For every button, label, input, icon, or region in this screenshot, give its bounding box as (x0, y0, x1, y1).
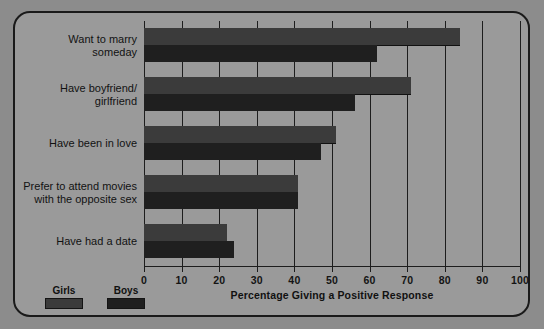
x-axis-tick (257, 266, 258, 272)
bar-boys-3 (144, 192, 298, 209)
x-axis-tick-label: 80 (425, 274, 465, 286)
category-label-4: Have had a date (0, 235, 137, 248)
plot-area: 0102030405060708090100 (144, 21, 520, 266)
chart-card: Want to marrysomedayHave boyfriend/girlf… (13, 11, 530, 317)
x-axis-tick (294, 266, 295, 272)
x-axis-tick-label: 10 (162, 274, 202, 286)
legend-item-girls[interactable]: Girls (35, 285, 93, 309)
category-labels: Want to marrysomedayHave boyfriend/girlf… (15, 21, 137, 266)
bar-boys-2 (144, 143, 321, 160)
x-axis-tick-label: 60 (350, 274, 390, 286)
x-axis-tick (482, 266, 483, 272)
x-axis-tick (445, 266, 446, 272)
x-axis-tick-label: 70 (387, 274, 427, 286)
x-axis-tick (144, 266, 145, 272)
category-label-3: Prefer to attend movieswith the opposite… (0, 180, 137, 205)
bar-girls-4 (144, 224, 227, 242)
bar-boys-0 (144, 45, 377, 62)
gridline (520, 21, 521, 266)
category-label-2: Have been in love (0, 137, 137, 150)
category-label-0: Want to marrysomeday (0, 33, 137, 58)
bar-boys-1 (144, 94, 355, 111)
bar-girls-3 (144, 175, 298, 193)
x-axis-tick (407, 266, 408, 272)
bar-girls-1 (144, 77, 411, 95)
x-axis-tick (182, 266, 183, 272)
legend-swatch-girls (45, 298, 83, 309)
legend-label-girls: Girls (35, 285, 93, 296)
bar-girls-2 (144, 126, 336, 144)
legend-item-boys[interactable]: Boys (97, 285, 155, 309)
x-axis-tick-label: 30 (237, 274, 277, 286)
gridline (445, 21, 446, 266)
x-axis-tick (370, 266, 371, 272)
x-axis-tick-label: 50 (312, 274, 352, 286)
x-axis-title: Percentage Giving a Positive Response (144, 289, 520, 301)
x-axis-tick-label: 100 (500, 274, 540, 286)
x-axis-tick-label: 40 (274, 274, 314, 286)
x-axis-tick-label: 20 (199, 274, 239, 286)
category-label-1: Have boyfriend/girlfriend (0, 82, 137, 107)
bar-girls-0 (144, 28, 460, 46)
legend-swatch-boys (107, 298, 145, 309)
gridline (407, 21, 408, 266)
x-axis-tick (332, 266, 333, 272)
x-axis-tick-label: 90 (462, 274, 502, 286)
bar-boys-4 (144, 241, 234, 258)
legend-label-boys: Boys (97, 285, 155, 296)
gridline (482, 21, 483, 266)
x-axis-tick (520, 266, 521, 272)
chart-screenshot: Want to marrysomedayHave boyfriend/girlf… (0, 0, 544, 329)
x-axis-tick (219, 266, 220, 272)
